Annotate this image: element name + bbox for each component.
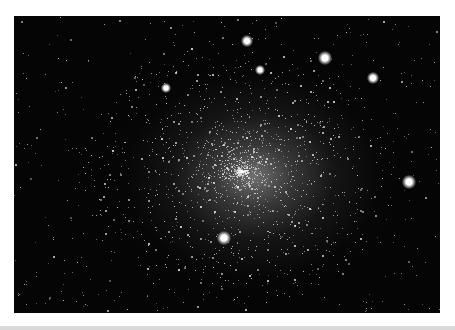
- bright-star: [318, 51, 332, 65]
- bright-star: [367, 72, 379, 84]
- star-cluster-photo: [14, 16, 440, 313]
- bright-star: [402, 175, 416, 189]
- bright-star: [255, 65, 265, 75]
- bright-star: [217, 231, 231, 245]
- bottom-strip: [0, 326, 455, 330]
- bright-star: [161, 83, 171, 93]
- bright-star: [241, 35, 253, 47]
- cluster-core: [104, 56, 404, 296]
